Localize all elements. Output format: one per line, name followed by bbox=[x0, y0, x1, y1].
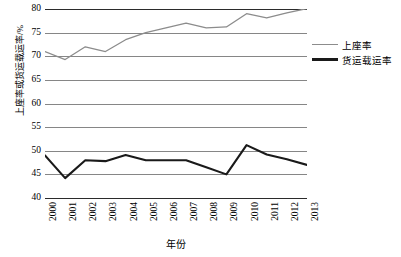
gridline-40 bbox=[45, 198, 307, 199]
y-tick-label-55: 55 bbox=[32, 122, 42, 132]
y-tick-label-70: 70 bbox=[32, 52, 42, 62]
x-tick-label-2006: 2006 bbox=[170, 202, 180, 221]
y-tick-label-75: 75 bbox=[32, 28, 42, 38]
legend-label: 货运载运率 bbox=[342, 53, 392, 67]
y-tick-label-50: 50 bbox=[32, 146, 42, 156]
series-lines bbox=[45, 9, 307, 198]
y-tick-label-40: 40 bbox=[32, 193, 42, 203]
x-tick-label-2013: 2013 bbox=[311, 202, 321, 221]
x-tick-label-2001: 2001 bbox=[69, 202, 79, 221]
legend-label: 上座率 bbox=[342, 38, 372, 52]
x-tick-label-2004: 2004 bbox=[130, 202, 140, 221]
legend-swatch-icon bbox=[312, 58, 338, 60]
x-tick-label-2000: 2000 bbox=[49, 202, 59, 221]
y-tick-label-65: 65 bbox=[32, 75, 42, 85]
y-tick-label-45: 45 bbox=[32, 170, 42, 180]
line-chart-figure: 上座率或货运载运率/% 404550556065707580 200020012… bbox=[0, 0, 401, 257]
x-tick-label-2010: 2010 bbox=[251, 202, 261, 221]
x-tick-label-2008: 2008 bbox=[210, 202, 220, 221]
x-axis-title: 年份 bbox=[45, 236, 307, 251]
series-line-seat-occupancy bbox=[45, 9, 307, 60]
legend-swatch-icon bbox=[312, 44, 338, 45]
x-tick-label-2003: 2003 bbox=[109, 202, 119, 221]
y-tick-label-60: 60 bbox=[32, 99, 42, 109]
series-line-freight-load-factor bbox=[45, 145, 307, 178]
x-tick-label-2011: 2011 bbox=[271, 202, 281, 221]
x-tick-label-2002: 2002 bbox=[89, 202, 99, 221]
x-tick-label-2007: 2007 bbox=[190, 202, 200, 221]
plot-area: 404550556065707580 bbox=[45, 9, 307, 198]
x-tick-label-2005: 2005 bbox=[150, 202, 160, 221]
y-axis-title: 上座率或货运载运率/% bbox=[13, 0, 26, 146]
x-tick-label-2012: 2012 bbox=[291, 202, 301, 221]
legend-item-1[interactable]: 货运载运率 bbox=[312, 52, 392, 67]
y-tick-label-80: 80 bbox=[32, 4, 42, 14]
x-tick-label-2009: 2009 bbox=[230, 202, 240, 221]
chart-legend: 上座率货运载运率 bbox=[312, 37, 392, 67]
legend-item-0[interactable]: 上座率 bbox=[312, 37, 392, 52]
